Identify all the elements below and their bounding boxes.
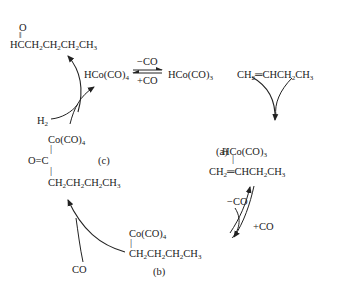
arrow-to-aldehyde <box>68 56 81 112</box>
arrow-b-to-c <box>68 200 125 252</box>
complex-c-bond-1: | <box>50 143 52 155</box>
top-plus-co: +CO <box>137 75 158 87</box>
aldehyde-product: HCCH2CH2CH2CH3 <box>10 39 97 51</box>
complex-c-middle: O=C <box>28 155 49 167</box>
alkene-1-butene: CH2═CHCH2CH3 <box>237 69 313 81</box>
hco3-active-catalyst: HCo(CO)3 <box>168 69 213 81</box>
h2-reagent: H2 <box>37 115 48 127</box>
complex-b-label: (b) <box>153 266 165 278</box>
complex-c-top: Co(CO)4 <box>48 134 85 146</box>
complex-a-bottom: CH2═CHCH2CH3 <box>209 166 285 178</box>
arrow-alkene <box>276 78 292 116</box>
complex-c-bottom: CH2CH2CH2CH3 <box>48 177 120 189</box>
co-reagent: CO <box>72 264 87 276</box>
arrow-to-complex-a <box>252 77 275 120</box>
complex-b-top: Co(CO)4 <box>129 228 166 240</box>
right-plus-co: +CO <box>253 221 274 233</box>
complex-a-bond: | <box>232 153 234 165</box>
top-minus-co: −CO <box>137 56 158 68</box>
complex-c-bond-2: | <box>50 165 52 177</box>
hco4-catalyst: HCo(CO)4 <box>84 69 129 81</box>
complex-a-top: HCo(CO)3 <box>222 146 267 158</box>
complex-b-bottom: CH2CH2CH2CH3 <box>129 248 201 260</box>
complex-c-label: (c) <box>98 155 110 167</box>
right-minus-co: −CO <box>227 196 248 208</box>
arrow-to-hco4 <box>70 87 94 124</box>
arrow-co <box>76 218 83 262</box>
